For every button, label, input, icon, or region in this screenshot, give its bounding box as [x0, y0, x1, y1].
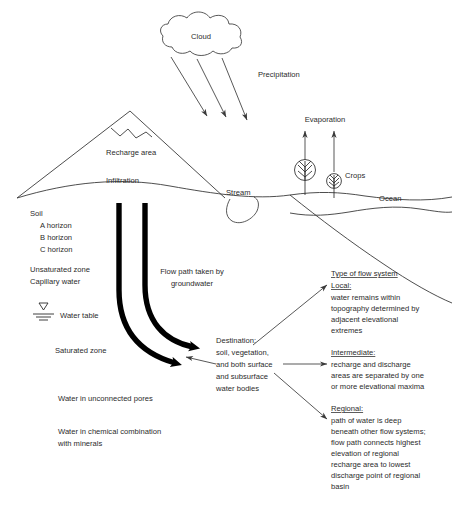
flow-system-regional-line3: flow path connects highest [331, 438, 421, 447]
flow-system-regional-line1: path of water is deep [331, 416, 402, 425]
stream-label: Stream [226, 188, 250, 197]
destination-line2: soil, vegetation, [216, 348, 269, 357]
evaporation-label: Evaporation [305, 115, 346, 124]
connector-to-local-arrow-icon [253, 285, 327, 345]
flow-system-intermediate-line1: recharge and discharge [331, 360, 411, 369]
flow-path-note-line2: groundwater [171, 279, 214, 288]
destination-line5: water bodies [215, 384, 259, 393]
precipitation-arrow-icon [171, 57, 247, 120]
destination-line3: and both surface [216, 360, 273, 369]
diagram-canvas: Cloud Precipitation Stream [0, 0, 454, 516]
flow-system-regional-line7: basin [331, 482, 349, 491]
crop-plant-icon [327, 174, 342, 198]
precipitation-label: Precipitation [258, 70, 300, 79]
water-table-label: Water table [60, 311, 99, 320]
flow-system-local-name: Local: [331, 281, 351, 290]
flow-system-regional-line6: discharge point of regional [331, 471, 420, 480]
saturated-zone-label: Saturated zone [55, 346, 107, 355]
hydrologic-cycle-diagram: Cloud Precipitation Stream [0, 0, 454, 516]
flow-system-regional-line5: recharge area to lowest [331, 460, 411, 469]
flow-path-note-line1: Flow path taken by [160, 267, 224, 276]
capillary-water-label: Capillary water [30, 277, 81, 286]
chemical-combination-line1: Water in chemical combination [58, 427, 161, 436]
flow-system-local-line1: water remains within [330, 293, 400, 302]
flow-system-local-line4: extremes [331, 326, 362, 335]
chemical-combination-line2: with minerals [57, 439, 103, 448]
stream-icon [227, 197, 259, 223]
flow-system-regional-name: Regional: [331, 404, 363, 413]
c-horizon-label: C horizon [40, 245, 73, 254]
b-horizon-label: B horizon [40, 233, 72, 242]
ocean-label: Ocean [379, 194, 401, 203]
flow-systems-heading: Type of flow system [331, 269, 398, 278]
flow-system-intermediate-line2: areas are separated by one [331, 371, 424, 380]
water-table-icon [33, 303, 54, 320]
unsaturated-zone-label: Unsaturated zone [30, 265, 90, 274]
unconnected-pores-label: Water in unconnected pores [58, 394, 153, 403]
flow-system-regional-line2: beneath other flow systems; [331, 427, 426, 436]
recharge-area-label: Recharge area [106, 148, 157, 157]
destination-line4: and subsurface [216, 372, 268, 381]
evaporation-arrow-icon [305, 131, 334, 172]
flow-system-local-line2: topography determined by [331, 304, 419, 313]
a-horizon-label: A horizon [40, 221, 72, 230]
flow-system-regional-line4: elevation of regional [331, 449, 399, 458]
seabed-line [290, 195, 452, 303]
soil-label: Soil [30, 209, 43, 218]
flow-system-local-line3: adjacent elevational [331, 315, 398, 324]
connector-to-regional-arrow-icon [274, 373, 327, 419]
crops-label: Crops [345, 171, 365, 180]
infiltration-label: Infiltration [106, 176, 139, 185]
flow-system-intermediate-line3: or more elevational maxima [331, 382, 425, 391]
tree-icon [295, 160, 316, 196]
destination-line1: Destination: [216, 336, 256, 345]
return-flow-arrow-icon [186, 357, 216, 364]
cloud-label: Cloud [191, 32, 211, 41]
flow-system-intermediate-name: Intermediate: [331, 348, 375, 357]
